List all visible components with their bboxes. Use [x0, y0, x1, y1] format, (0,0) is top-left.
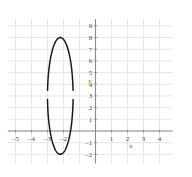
y-tick-label: 8 [89, 34, 93, 42]
ellipse-curve-segment [60, 38, 73, 91]
x-axis-name-label: x [128, 142, 133, 150]
tick-labels: –5–4–3–21234987654321–1–2 [11, 22, 162, 158]
y-tick-label: –1 [84, 139, 93, 147]
y-tick-label: –2 [84, 151, 93, 159]
y-tick-label: 6 [89, 57, 93, 65]
coordinate-plane-svg: –5–4–3–21234987654321–1–2 xy [0, 0, 192, 177]
x-tick-label: 1 [110, 135, 114, 143]
ellipse-curve-segment [48, 38, 61, 91]
x-tick-label: –4 [27, 135, 36, 143]
y-tick-label: 1 [89, 116, 93, 124]
y-tick-label: 2 [89, 104, 93, 112]
x-tick-label: –5 [11, 135, 20, 143]
y-tick-label: 7 [89, 46, 93, 54]
tick-marks [16, 26, 160, 154]
x-tick-label: –2 [59, 135, 68, 143]
y-tick-label: 9 [89, 22, 93, 30]
x-tick-label: 4 [158, 135, 162, 143]
y-tick-label: 3 [89, 92, 93, 100]
x-tick-label: 3 [142, 135, 146, 143]
graph-figure: –5–4–3–21234987654321–1–2 xy [0, 0, 192, 177]
